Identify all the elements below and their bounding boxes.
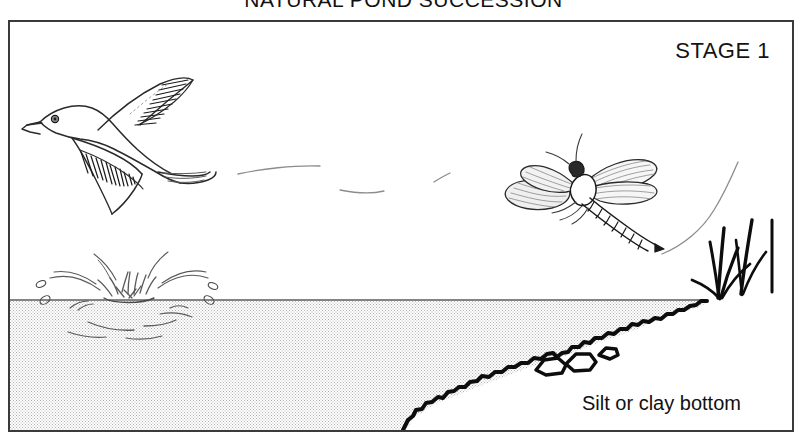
dragonfly-flight-path (662, 162, 738, 254)
stage-label: STAGE 1 (675, 38, 770, 64)
bottom-substrate-label: Silt or clay bottom (582, 392, 741, 415)
dragonfly (505, 134, 664, 252)
water-splash (35, 252, 219, 339)
figure-title: NATURAL POND SUCCESSION (0, 0, 807, 12)
illustration-canvas: NATURAL POND SUCCESSION (0, 0, 807, 445)
illustration-frame: STAGE 1 Silt or clay bottom (8, 20, 794, 432)
shore-reeds (692, 220, 772, 299)
flying-bird (22, 78, 216, 214)
bird-flight-trail (238, 166, 450, 193)
pond-scene (10, 22, 792, 430)
lineart-layer (10, 22, 792, 430)
